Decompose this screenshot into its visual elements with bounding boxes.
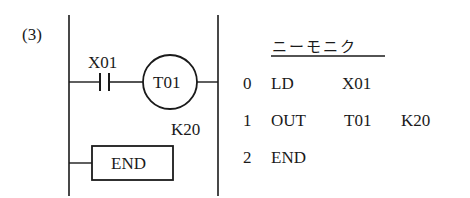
step-number: 2 [243,149,252,166]
step-number: 1 [243,112,252,129]
ladder-lines [0,0,470,198]
step-number: 0 [243,75,252,92]
figure-label: (3) [22,26,42,43]
instruction: END [271,149,306,166]
contact-x01-icon [100,73,109,91]
mnemonic-title: ニーモニク [272,35,357,56]
operand: X01 [342,75,371,92]
parameter: K20 [401,112,430,129]
instruction: LD [271,75,294,92]
end-label: END [111,155,146,172]
coil-setting: K20 [171,121,200,138]
contact-label: X01 [88,54,117,71]
instruction: OUT [271,112,306,129]
coil-label: T01 [153,74,180,91]
operand: T01 [344,112,371,129]
